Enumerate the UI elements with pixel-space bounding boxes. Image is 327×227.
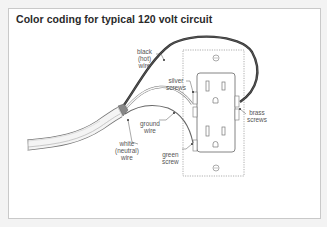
label-brass-screws: brass screws xyxy=(247,109,267,123)
label-ground-wire: ground wire xyxy=(140,120,160,134)
mounting-screw-top-icon xyxy=(213,55,219,61)
brass-screw-terminals-icon xyxy=(235,96,239,120)
wiring-diagram xyxy=(0,0,327,227)
cable-sheath xyxy=(28,112,120,151)
mounting-screw-bottom-icon xyxy=(213,165,219,171)
label-black-hot-wire: black (hot) wire xyxy=(137,48,152,69)
label-green-screw: green screw xyxy=(162,151,179,165)
receptacle-body xyxy=(197,73,235,152)
silver-screw-terminals-icon xyxy=(193,92,197,151)
label-silver-screws: silver screws xyxy=(166,77,186,91)
label-white-neutral-wire: white (neutral) wire xyxy=(115,140,139,161)
